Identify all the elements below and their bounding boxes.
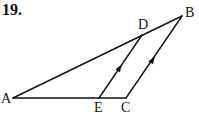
- point-label-c: C: [121, 101, 130, 114]
- triangle-diagram: [0, 0, 199, 114]
- parallel-arrow-icon-de: [116, 65, 123, 73]
- segment-bc: [126, 16, 182, 98]
- point-label-b: B: [185, 6, 194, 20]
- segment-ab: [13, 16, 182, 98]
- point-label-a: A: [1, 92, 11, 106]
- point-label-d: D: [138, 18, 148, 32]
- point-label-e: E: [94, 101, 103, 114]
